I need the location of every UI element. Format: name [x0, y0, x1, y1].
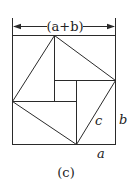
arrowhead-left	[13, 24, 21, 29]
pythagorean-square-diagram: (a+b) b c a (c)	[0, 0, 131, 183]
dimension-label: (a+b)	[46, 19, 83, 34]
inner-square-c	[13, 36, 116, 145]
label-a: a	[97, 146, 105, 161]
outer-square	[13, 36, 116, 145]
arrowhead-right	[107, 24, 115, 29]
label-c: c	[95, 113, 103, 128]
figure-caption: (c)	[57, 165, 74, 180]
label-b: b	[119, 112, 127, 127]
